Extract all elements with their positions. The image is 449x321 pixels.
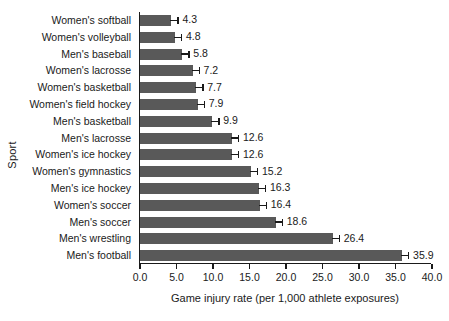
- bar: [140, 149, 232, 160]
- y-axis-tick-label: Women's softball: [52, 13, 131, 28]
- bar: [140, 82, 196, 93]
- x-axis-tick-label: 30.0: [349, 271, 369, 283]
- bar-value-label: 7.7: [207, 82, 222, 93]
- y-axis-tick-label: Men's football: [67, 248, 131, 263]
- x-axis-tick: [431, 264, 432, 269]
- x-axis-tick: [176, 264, 177, 269]
- bar-value-label: 26.4: [344, 233, 364, 244]
- bar-value-label: 5.8: [193, 48, 208, 59]
- bar: [140, 49, 182, 60]
- x-axis-tick: [358, 264, 359, 269]
- error-bar-line: [170, 20, 177, 21]
- bar-value-label: 35.9: [413, 250, 433, 261]
- error-bar-cap: [339, 235, 340, 242]
- y-axis-tick-label: Women's ice hockey: [35, 147, 131, 162]
- y-axis-tick-label: Men's wrestling: [59, 231, 131, 246]
- error-bar-line: [195, 87, 202, 88]
- x-axis-title: Game injury rate (per 1,000 athlete expo…: [139, 292, 431, 304]
- y-axis-tick-label: Women's basketball: [38, 80, 131, 95]
- error-bar-cap: [265, 185, 266, 192]
- x-axis-tick-label: 5.0: [169, 271, 184, 283]
- bar: [140, 217, 276, 228]
- error-bar-line: [174, 37, 181, 38]
- x-axis-tick-label: 10.0: [203, 271, 223, 283]
- y-axis-tick-label: Women's soccer: [54, 198, 131, 213]
- bar: [140, 15, 171, 26]
- error-bar-cap: [266, 202, 267, 209]
- error-bar-line: [231, 137, 238, 138]
- bar: [140, 32, 175, 43]
- bar-value-label: 7.2: [204, 65, 219, 76]
- y-axis-tick-label: Men's soccer: [69, 215, 131, 230]
- bar: [140, 166, 251, 177]
- error-bar-cap: [199, 67, 200, 74]
- error-bar-cap: [282, 219, 283, 226]
- y-axis-tick-label: Women's field hockey: [29, 97, 131, 112]
- bar-value-label: 18.6: [287, 216, 307, 227]
- error-bar-line: [197, 104, 204, 105]
- bar-value-label: 7.9: [209, 98, 224, 109]
- bar-value-label: 4.8: [186, 31, 201, 42]
- error-bar-line: [231, 154, 238, 155]
- bar-value-label: 4.3: [182, 14, 197, 25]
- x-axis-tick: [322, 264, 323, 269]
- y-axis-tick-label: Men's baseball: [61, 47, 131, 62]
- error-bar-line: [211, 121, 218, 122]
- bar-value-label: 12.6: [243, 149, 263, 160]
- bar-value-label: 12.6: [243, 132, 263, 143]
- bar-value-label: 15.2: [262, 166, 282, 177]
- error-bar-line: [332, 238, 339, 239]
- x-axis-tick-label: 0.0: [133, 271, 148, 283]
- x-axis-tick: [249, 264, 250, 269]
- bar-value-label: 16.4: [271, 199, 291, 210]
- error-bar-line: [401, 255, 408, 256]
- x-axis-tick: [212, 264, 213, 269]
- bar: [140, 65, 193, 76]
- bar: [140, 250, 402, 261]
- y-axis-tick-label: Women's lacrosse: [46, 63, 131, 78]
- bar-chart-figure: Sport Women's softballWomen's volleyball…: [0, 0, 449, 321]
- y-axis-tick-label: Women's gymnastics: [32, 164, 131, 179]
- y-axis-tick-label: Men's ice hockey: [51, 181, 131, 196]
- bar: [140, 133, 232, 144]
- error-bar-cap: [188, 51, 189, 58]
- error-bar-cap: [204, 101, 205, 108]
- y-axis-tick-label: Men's basketball: [53, 114, 131, 129]
- x-axis-tick: [395, 264, 396, 269]
- error-bar-line: [250, 171, 257, 172]
- x-axis-tick-label: 20.0: [276, 271, 296, 283]
- bar: [140, 233, 333, 244]
- bar: [140, 116, 212, 127]
- x-axis-tick: [139, 264, 140, 269]
- bar-value-label: 9.9: [223, 115, 238, 126]
- x-axis-tick-label: 25.0: [312, 271, 332, 283]
- y-axis-tick-label: Men's lacrosse: [61, 131, 131, 146]
- y-axis-tick-label: Women's volleyball: [42, 30, 131, 45]
- error-bar-line: [259, 205, 266, 206]
- bar-value-label: 16.3: [270, 182, 290, 193]
- y-axis-title: Sport: [2, 110, 22, 200]
- bar: [140, 183, 259, 194]
- error-bar-line: [258, 188, 265, 189]
- y-axis-tick-labels: Women's softballWomen's volleyballMen's …: [22, 12, 135, 264]
- error-bar-line: [275, 221, 282, 222]
- x-axis-tick-label: 40.0: [422, 271, 442, 283]
- bar: [140, 99, 198, 110]
- error-bar-cap: [257, 168, 258, 175]
- x-axis-tick: [285, 264, 286, 269]
- error-bar-cap: [218, 118, 219, 125]
- error-bar-line: [192, 70, 199, 71]
- error-bar-cap: [238, 151, 239, 158]
- error-bar-cap: [238, 135, 239, 142]
- error-bar-cap: [202, 84, 203, 91]
- error-bar-cap: [408, 252, 409, 259]
- y-axis-title-text: Sport: [6, 141, 18, 168]
- error-bar-cap: [177, 17, 178, 24]
- error-bar-cap: [181, 34, 182, 41]
- x-axis-tick-label: 35.0: [385, 271, 405, 283]
- plot-area: 4.34.85.87.27.77.99.912.612.615.216.316.…: [139, 12, 431, 264]
- error-bar-line: [181, 53, 188, 54]
- bar: [140, 200, 260, 211]
- x-axis-tick-label: 15.0: [239, 271, 259, 283]
